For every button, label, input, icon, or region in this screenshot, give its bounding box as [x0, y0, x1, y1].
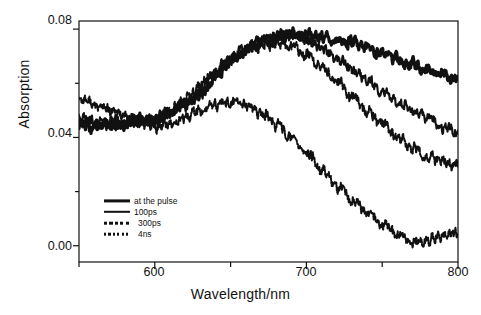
legend-item-at-the-pulse: at the pulse — [104, 196, 177, 206]
legend-key-dotted-icon — [104, 229, 130, 239]
legend-label-100ps: 100ps — [134, 207, 157, 217]
legend-item-4ns: 4ns — [104, 229, 177, 239]
y-tick-label-008: 0.08 — [22, 13, 72, 27]
x-axis-label: Wavelength/nm — [0, 286, 481, 302]
x-tick-label-700: 700 — [276, 265, 336, 279]
plot-canvas — [0, 0, 481, 315]
legend-label-4ns: 4ns — [134, 229, 152, 239]
legend-item-300ps: 300ps — [104, 218, 177, 228]
y-tick-label-004: 0.04 — [22, 126, 72, 140]
legend-label-at-the-pulse: at the pulse — [134, 196, 177, 206]
legend-item-100ps: 100ps — [104, 207, 177, 217]
legend-label-300ps: 300ps — [134, 218, 161, 228]
y-tick-label-000: 0.00 — [22, 239, 72, 253]
legend-key-thick-solid-icon — [104, 196, 130, 206]
absorption-spectra-figure: Absorption Wavelength/nm 600 700 800 0.0… — [0, 0, 481, 315]
x-tick-label-800: 800 — [428, 265, 481, 279]
legend: at the pulse 100ps 300ps 4ns — [104, 196, 177, 240]
legend-key-dashed-icon — [104, 218, 130, 228]
legend-key-solid-icon — [104, 207, 130, 217]
x-tick-label-600: 600 — [124, 265, 184, 279]
